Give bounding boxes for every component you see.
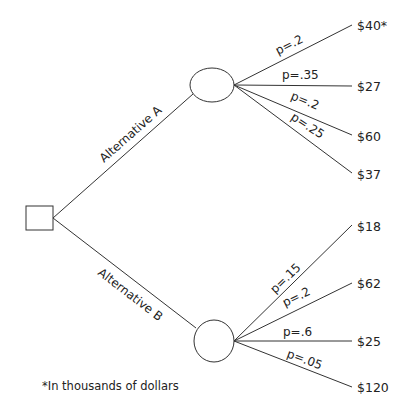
payoff-b-3: $25 bbox=[357, 334, 381, 349]
probability-a-1: p=.2 bbox=[273, 32, 305, 58]
chance-node-a bbox=[190, 68, 234, 102]
branch-alternative-b bbox=[53, 218, 196, 328]
branch-b-outcome-1 bbox=[234, 225, 352, 341]
branch-a-outcome-2 bbox=[234, 85, 352, 86]
payoff-a-2: $27 bbox=[357, 79, 381, 94]
probability-a-4: p=.25 bbox=[288, 110, 326, 142]
alternative-a-label: Alternative A bbox=[97, 103, 165, 166]
probability-b-3: p=.6 bbox=[283, 325, 312, 339]
payoff-b-4: $120 bbox=[357, 380, 389, 395]
payoff-a-4: $37 bbox=[357, 167, 381, 182]
payoff-a-3: $60 bbox=[357, 129, 381, 144]
payoff-b-1: $18 bbox=[357, 219, 381, 234]
payoff-a-1: $40* bbox=[357, 18, 387, 33]
decision-node-square bbox=[26, 206, 53, 230]
probability-a-2: p=.35 bbox=[282, 68, 319, 82]
branch-alternative-a bbox=[53, 94, 193, 218]
chance-node-b bbox=[194, 320, 234, 362]
payoff-b-2: $62 bbox=[357, 276, 381, 291]
alternative-b-label: Alternative B bbox=[95, 265, 165, 324]
decision-tree-diagram: Alternative A Alternative B p=.2 p=.35 p… bbox=[0, 0, 401, 418]
probability-a-3: p=.2 bbox=[289, 89, 321, 113]
footnote: *In thousands of dollars bbox=[42, 379, 179, 393]
